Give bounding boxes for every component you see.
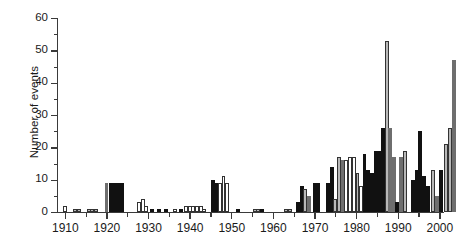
bar: [150, 209, 154, 212]
bar: [94, 209, 98, 212]
bar: [426, 186, 430, 212]
bar: [288, 209, 292, 212]
bar: [173, 209, 177, 212]
bar: [202, 209, 206, 212]
bar: [164, 209, 168, 212]
bar: [260, 209, 264, 212]
bar: [157, 209, 161, 212]
bar: [236, 209, 240, 212]
bar: [316, 183, 320, 212]
bars-layer: [0, 0, 456, 247]
bar: [120, 183, 124, 212]
bar-chart: Number of events 0102030405060 191019201…: [0, 0, 456, 247]
bar: [63, 206, 67, 212]
bar: [439, 170, 443, 212]
bar: [179, 209, 183, 212]
bar: [225, 183, 229, 212]
bar: [452, 60, 456, 212]
bar: [403, 151, 407, 212]
bar: [307, 196, 311, 212]
bar: [77, 209, 81, 212]
bar: [144, 206, 148, 212]
